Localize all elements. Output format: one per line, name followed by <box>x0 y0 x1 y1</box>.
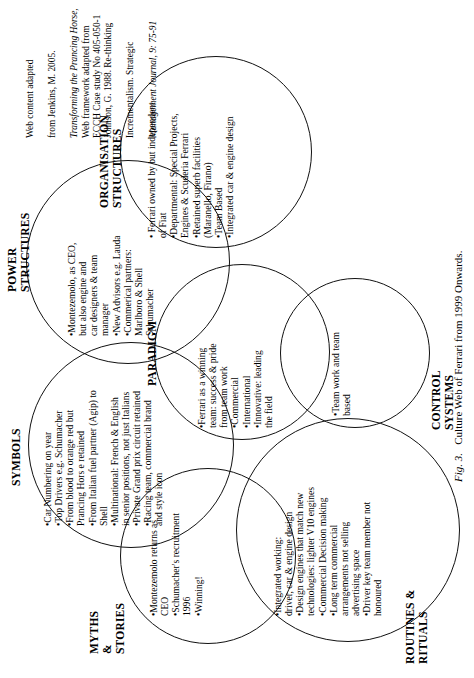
figure-rotation-wrapper: MYTHS & STORIES •Montezemolo returns as … <box>0 0 474 678</box>
reference-web-framework-source: Web framework adapted from Johnson, G. 1… <box>70 6 159 138</box>
figure-number: Fig. 3. <box>452 453 464 482</box>
reference-line: Web content adapted <box>25 60 35 138</box>
label-routines-rituals: ROUTINES & RITUALS <box>404 589 430 664</box>
reference-line: from Jenkins, M. 2005. <box>47 51 57 139</box>
figure-title: Culture Web of Ferrari from 1999 Onwards… <box>452 251 464 445</box>
label-power-structures: POWER STRUCTURES <box>6 213 32 292</box>
bullets-control-systems: •Team work and team based <box>330 300 352 416</box>
culture-web-figure: MYTHS & STORIES •Montezemolo returns as … <box>0 0 474 678</box>
label-myths-stories: MYTHS & STORIES <box>88 603 127 654</box>
reference-line: Incrementalism. Strategic <box>125 42 135 138</box>
label-symbols: SYMBOLS <box>10 428 23 486</box>
label-paradigm: PARADIGM <box>146 321 159 386</box>
bullets-organisation-structures: • Ferrari owned by but independent of Fi… <box>146 60 235 238</box>
reference-line: Web framework adapted from <box>81 26 91 138</box>
bullets-paradigm: •Ferrari as a winning team: success & pr… <box>196 274 274 428</box>
reference-line: Johnson, G. 1988. Re-thinking <box>103 23 113 138</box>
reference-line-italic: Management Journal, 9: 75-91 <box>148 21 158 138</box>
bullets-routines-rituals: •Integrated working: driver, car & engin… <box>272 440 383 616</box>
figure-caption: Fig. 3. Culture Web of Ferrari from 1999… <box>452 251 465 482</box>
